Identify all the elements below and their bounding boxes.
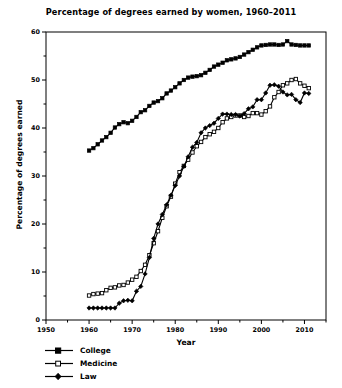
legend-item-college: College — [44, 344, 117, 357]
svg-text:1960: 1960 — [80, 326, 98, 334]
y-axis-label: Percentage of degrees earned — [15, 95, 24, 235]
svg-text:2010: 2010 — [296, 326, 314, 334]
svg-text:1990: 1990 — [209, 326, 227, 334]
legend-key-medicine — [44, 357, 74, 370]
svg-text:1980: 1980 — [166, 326, 184, 334]
chart-legend: College Medicine Law — [44, 344, 117, 383]
legend-item-medicine: Medicine — [44, 357, 117, 370]
legend-label-medicine: Medicine — [80, 357, 117, 370]
svg-text:50: 50 — [31, 76, 40, 84]
plot-area: 0102030405060195019601970198019902000201… — [0, 0, 342, 340]
svg-text:60: 60 — [31, 28, 40, 36]
legend-key-law — [44, 370, 74, 383]
svg-text:10: 10 — [31, 268, 40, 276]
svg-text:1950: 1950 — [37, 326, 55, 334]
svg-text:20: 20 — [31, 220, 40, 228]
svg-text:1970: 1970 — [123, 326, 141, 334]
chart-figure: Percentage of degrees earned by women, 1… — [0, 0, 342, 388]
legend-item-law: Law — [44, 370, 117, 383]
svg-text:2000: 2000 — [252, 326, 270, 334]
svg-text:40: 40 — [31, 124, 40, 132]
chart-title: Percentage of degrees earned by women, 1… — [0, 7, 342, 17]
legend-label-law: Law — [80, 370, 97, 383]
legend-key-college — [44, 344, 74, 357]
svg-text:30: 30 — [31, 172, 40, 180]
svg-text:0: 0 — [36, 316, 41, 324]
legend-label-college: College — [80, 344, 111, 357]
